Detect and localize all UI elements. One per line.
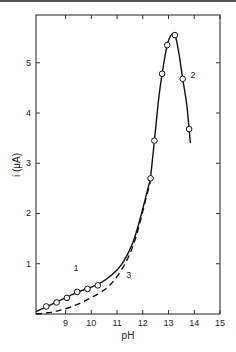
series-2-marker: [159, 71, 165, 77]
y-tick-label: 5: [26, 58, 31, 68]
curve-label-1: 1: [73, 263, 78, 273]
curve-label-2: 2: [190, 70, 195, 80]
series-1-marker: [74, 289, 80, 295]
x-tick-label: 13: [164, 318, 174, 328]
y-axis-label: i (μA): [11, 153, 22, 177]
series-1-line: [36, 178, 151, 311]
plot-axes: 910111213141512345: [26, 15, 225, 328]
y-tick-label: 3: [26, 158, 31, 168]
series-2-marker: [180, 76, 186, 82]
x-tick-label: 11: [112, 318, 121, 328]
series-2-marker: [148, 176, 154, 182]
curve-label-3: 3: [126, 270, 131, 280]
chart: 910111213141512345 123 pH i (μA): [0, 0, 236, 352]
plot-series: 123: [36, 32, 195, 314]
x-tick-label: 12: [138, 318, 148, 328]
y-tick-label: 1: [26, 259, 31, 269]
series-2-marker: [172, 32, 178, 38]
series-2-marker: [152, 138, 158, 144]
x-tick-label: 9: [63, 318, 68, 328]
series-3-line: [36, 181, 151, 314]
x-tick-label: 10: [86, 318, 96, 328]
series-2-line: [151, 33, 191, 178]
series-2-marker: [186, 126, 192, 132]
x-tick-label: 14: [189, 318, 199, 328]
y-tick-label: 2: [26, 208, 31, 218]
plot-labels: pH i (μA): [11, 153, 134, 341]
x-axis-label: pH: [122, 330, 135, 341]
x-tick-label: 15: [215, 318, 225, 328]
series-1-marker: [85, 286, 91, 292]
series-1-marker: [54, 300, 60, 306]
series-1-marker: [64, 295, 70, 301]
y-tick-label: 4: [26, 108, 31, 118]
series-1-marker: [43, 304, 49, 310]
series-2-marker: [164, 42, 170, 48]
series-1-marker: [95, 283, 101, 289]
